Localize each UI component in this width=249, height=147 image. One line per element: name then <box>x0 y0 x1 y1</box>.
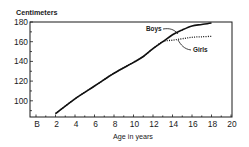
x-tick-label: 2 <box>54 119 59 129</box>
x-axis-label: Age in years <box>113 132 153 141</box>
y-axis-label: Centimeters <box>16 8 58 17</box>
x-tick-label: 4 <box>74 119 79 129</box>
annotation-boys: Boys <box>146 25 162 33</box>
x-tick-label: 10 <box>130 119 140 129</box>
y-tick-label: 180 <box>14 17 28 27</box>
x-tick-label: 16 <box>188 119 198 129</box>
y-tick-label: 160 <box>14 37 28 47</box>
x-tick-label: 20 <box>227 119 237 129</box>
x-tick-label: 8 <box>113 119 118 129</box>
growth-chart: Centimeters 100120140160180 B24681012141… <box>0 0 249 147</box>
y-tick-label: 120 <box>14 76 28 86</box>
x-tick-label: 12 <box>149 119 159 129</box>
series-boys-line <box>56 23 212 114</box>
series-girls-line <box>56 36 212 113</box>
x-tick-label: 18 <box>208 119 218 129</box>
annotation-girls: Girls <box>193 46 208 53</box>
x-tick-label: 6 <box>93 119 98 129</box>
x-tick-label: B <box>34 119 40 129</box>
y-tick-label: 100 <box>14 96 28 106</box>
x-tick-label: 14 <box>169 119 179 129</box>
annotation-girls-pointer <box>178 40 191 50</box>
y-tick-label: 140 <box>14 56 28 66</box>
